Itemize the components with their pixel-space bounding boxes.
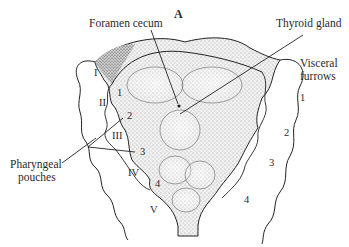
pharyngeal-pouches-leader-c <box>88 147 135 152</box>
pouch-label-4: 4 <box>155 179 160 190</box>
pouch-label-2: 2 <box>127 111 132 122</box>
thyroid-gland-label: Thyroid gland <box>276 18 341 30</box>
arch-label-1: I <box>94 68 98 79</box>
pouch-label-1: 1 <box>117 88 122 99</box>
furrow-label-3: 3 <box>269 158 274 169</box>
visceral-furrows-label-line1: Visceral <box>300 58 338 70</box>
pharyngeal-pouches-label-line2: pouches <box>18 172 56 184</box>
pharyngeal-floor-diagram <box>0 0 349 247</box>
furrow-label-4: 4 <box>244 195 249 206</box>
arch-label-2: II <box>99 98 106 109</box>
arch-label-3: III <box>112 131 123 142</box>
furrow-label-2: 2 <box>284 128 289 139</box>
panel-label: A <box>174 8 183 20</box>
foramen-cecum-label: Foramen cecum <box>89 18 163 30</box>
arch-label-5: V <box>150 205 158 216</box>
pouch-label-3: 3 <box>140 147 145 158</box>
foramen-cecum-point <box>177 104 180 107</box>
pharyngeal-pouches-label-line1: Pharyngeal <box>10 159 62 171</box>
visceral-furrows-label-line2: furrows <box>300 71 336 83</box>
furrow-label-1: 1 <box>300 93 305 104</box>
arch-label-4: IV <box>128 168 139 179</box>
pharyngeal-pouches-leader-a <box>62 138 96 163</box>
